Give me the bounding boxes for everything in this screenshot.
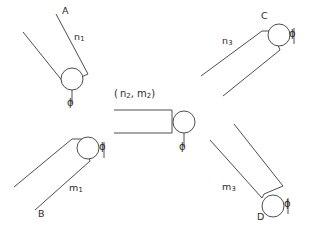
assembly-top-left [23,14,88,104]
label-n3-sub: 3 [228,39,232,47]
bob-top-right [268,24,290,46]
label-phi-top-right: ϕ [289,29,296,39]
bob-bottom-left [77,137,99,159]
label-center-open: ( n [114,88,126,99]
label-endpoint-a: A [62,6,69,16]
bob-center [173,111,195,133]
rod-bottom-left-edge-outer [14,139,72,187]
assembly-bottom-left [14,137,104,210]
bob-bottom-right [262,195,284,217]
label-m3-sub: 3 [231,185,235,193]
label-center-mid: , m [131,88,147,99]
rod-bottom-right-cap [264,186,283,194]
pendulum-diagram: A n1 ϕ B m1 ϕ C n3 ϕ D m3 ϕ ( n2, m2) ϕ [0,0,318,239]
rod-bottom-right-cap-join [262,194,264,198]
label-phi-top-left: ϕ [67,98,74,108]
label-endpoint-b: B [38,209,45,219]
rod-bottom-right-edge-inner [234,124,283,186]
rod-top-left-edge-inner [56,14,88,74]
label-phi-bottom-left: ϕ [99,142,106,152]
label-phi-bottom-right: ϕ [284,199,291,209]
label-center-parameters: ( n2, m2) [114,89,155,100]
label-phi-center: ϕ [179,142,186,152]
diagram-canvas [0,0,318,239]
label-m3: m3 [222,182,236,193]
rod-bottom-right-edge-outer [210,140,262,198]
label-endpoint-d: D [257,212,265,222]
label-n1: n1 [74,32,85,43]
label-endpoint-c: C [261,11,268,21]
bob-top-left [61,68,83,90]
label-n1-sub: 1 [80,35,84,43]
assembly-bottom-right [210,124,288,217]
label-center-close: ) [151,88,155,99]
label-m1-sub: 1 [78,186,82,194]
label-m1: m1 [69,183,83,194]
label-n3: n3 [222,36,233,47]
rod-top-right-edge-inner [223,50,280,96]
assembly-top-right [201,24,294,96]
